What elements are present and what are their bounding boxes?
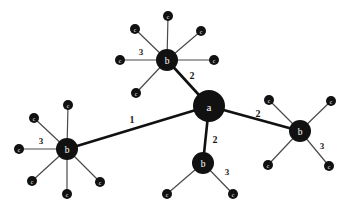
graph-node-c: c xyxy=(228,189,238,199)
node-circle xyxy=(156,49,178,71)
node-circle xyxy=(29,113,39,123)
graph-node-c: c xyxy=(62,189,72,199)
edge-weight-label: 2 xyxy=(213,134,218,145)
graph-node-c: c xyxy=(162,189,172,199)
node-circle xyxy=(289,120,311,142)
graph-node-c: c xyxy=(14,144,24,154)
node-circle xyxy=(130,24,140,34)
graph-node-c: c xyxy=(95,177,105,187)
node-circle xyxy=(263,160,273,170)
graph-node-c: c xyxy=(326,96,336,106)
node-circle xyxy=(324,161,334,171)
graph-node-b: b xyxy=(192,152,214,174)
node-circle xyxy=(163,11,173,21)
node-circle xyxy=(14,144,24,154)
node-circle xyxy=(95,177,105,187)
edge-weight-label: 3 xyxy=(39,136,44,146)
graph-node-c: c xyxy=(163,11,173,21)
graph-node-a: a xyxy=(193,90,225,122)
node-circle xyxy=(63,100,73,110)
graph-node-c: c xyxy=(263,160,273,170)
node-circle xyxy=(62,189,72,199)
node-circle xyxy=(131,88,141,98)
graph-node-c: c xyxy=(209,55,219,65)
edge-weight-label: 2 xyxy=(190,70,195,81)
node-circle xyxy=(193,90,225,122)
node-circle xyxy=(196,26,206,36)
node-circle xyxy=(228,189,238,199)
node-circle xyxy=(162,189,172,199)
node-circle xyxy=(209,55,219,65)
node-circle xyxy=(326,96,336,106)
graph-node-b: b xyxy=(56,138,78,160)
diagram-canvas: abbbbcccccccccccccccccc 21223333 xyxy=(0,0,352,212)
node-circle xyxy=(264,95,274,105)
graph-node-b: b xyxy=(156,49,178,71)
nodes-layer: abbbbcccccccccccccccccc xyxy=(14,11,336,199)
edge-labels-layer: 21223333 xyxy=(39,47,325,177)
node-circle xyxy=(27,176,37,186)
graph-node-c: c xyxy=(196,26,206,36)
graph-edge xyxy=(67,106,209,149)
edge-weight-label: 3 xyxy=(225,167,230,177)
graph-node-c: c xyxy=(115,55,125,65)
node-circle xyxy=(56,138,78,160)
node-circle xyxy=(192,152,214,174)
edge-weight-label: 2 xyxy=(256,108,261,119)
graph-node-c: c xyxy=(29,113,39,123)
graph-node-c: c xyxy=(27,176,37,186)
graph-node-c: c xyxy=(324,161,334,171)
edge-weight-label: 3 xyxy=(139,47,144,57)
graph-node-c: c xyxy=(264,95,274,105)
edge-weight-label: 3 xyxy=(320,141,325,151)
edge-weight-label: 1 xyxy=(130,114,135,125)
graph-node-c: c xyxy=(63,100,73,110)
graph-node-b: b xyxy=(289,120,311,142)
graph-node-c: c xyxy=(130,24,140,34)
graph-node-c: c xyxy=(131,88,141,98)
node-circle xyxy=(115,55,125,65)
graph-diagram: abbbbcccccccccccccccccc 21223333 xyxy=(0,0,352,212)
